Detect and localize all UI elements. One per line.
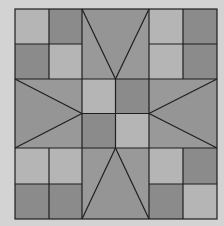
corner-top-right-cell (183, 9, 217, 44)
corner-bottom-right-cell (183, 184, 217, 219)
corner-top-right-cell (149, 9, 183, 44)
corner-top-right-cell (149, 44, 183, 79)
center-cell (116, 114, 150, 149)
center-cell (82, 79, 116, 114)
corner-top-right-cell (183, 44, 217, 79)
center-cell (116, 79, 150, 114)
corner-top-left-cell (15, 9, 49, 44)
corner-bottom-left-cell (49, 148, 82, 184)
corner-bottom-left-cell (15, 184, 49, 219)
corner-top-left-cell (15, 44, 49, 79)
corner-top-left-cell (49, 9, 82, 44)
corner-bottom-right-cell (183, 148, 217, 184)
corner-bottom-right-cell (149, 184, 183, 219)
quilt-diagram (0, 0, 224, 226)
corner-bottom-left-cell (15, 148, 49, 184)
corner-bottom-left-cell (49, 184, 82, 219)
corner-top-left-cell (49, 44, 82, 79)
center-cell (82, 114, 116, 149)
corner-bottom-right-cell (149, 148, 183, 184)
